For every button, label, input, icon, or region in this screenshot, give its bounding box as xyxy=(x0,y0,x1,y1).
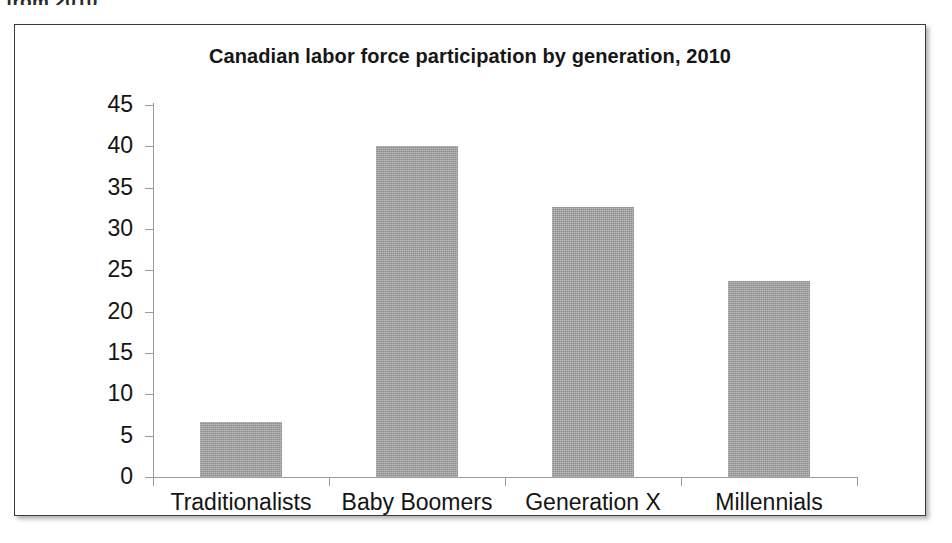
y-tick-label: 40 xyxy=(73,134,133,157)
y-tick-mark xyxy=(145,353,153,354)
chart-figure: Canadian labor force participation by ge… xyxy=(14,24,926,516)
y-tick-mark xyxy=(145,105,153,106)
y-tick-label: 30 xyxy=(73,217,133,240)
y-tick-label: 10 xyxy=(73,382,133,405)
y-tick-mark xyxy=(145,146,153,147)
y-tick-mark xyxy=(145,436,153,437)
x-tick-label: Generation X xyxy=(505,489,681,516)
y-tick-mark xyxy=(145,229,153,230)
plot-area xyxy=(153,105,857,477)
bar xyxy=(552,207,634,477)
bar xyxy=(376,146,458,477)
y-tick-label: 25 xyxy=(73,258,133,281)
y-tick-label: 5 xyxy=(73,424,133,447)
y-tick-mark xyxy=(145,188,153,189)
x-tick-mark xyxy=(857,477,858,486)
bar xyxy=(728,281,810,477)
y-tick-mark xyxy=(145,394,153,395)
x-tick-mark xyxy=(681,477,682,486)
x-tick-label: Millennials xyxy=(681,489,857,516)
y-tick-mark xyxy=(145,477,153,478)
bar xyxy=(200,422,282,477)
x-tick-mark xyxy=(505,477,506,486)
clipped-caption-text: from 2010. xyxy=(6,0,103,5)
chart-title: Canadian labor force participation by ge… xyxy=(15,45,925,68)
x-tick-label: Baby Boomers xyxy=(329,489,505,516)
x-tick-mark xyxy=(329,477,330,486)
x-tick-mark xyxy=(153,477,154,486)
y-tick-label: 15 xyxy=(73,341,133,364)
x-tick-label: Traditionalists xyxy=(153,489,329,516)
y-tick-label: 35 xyxy=(73,176,133,199)
y-tick-label: 20 xyxy=(73,300,133,323)
y-tick-label: 0 xyxy=(73,465,133,488)
y-tick-mark xyxy=(145,312,153,313)
y-tick-label: 45 xyxy=(73,93,133,116)
y-tick-mark xyxy=(145,270,153,271)
